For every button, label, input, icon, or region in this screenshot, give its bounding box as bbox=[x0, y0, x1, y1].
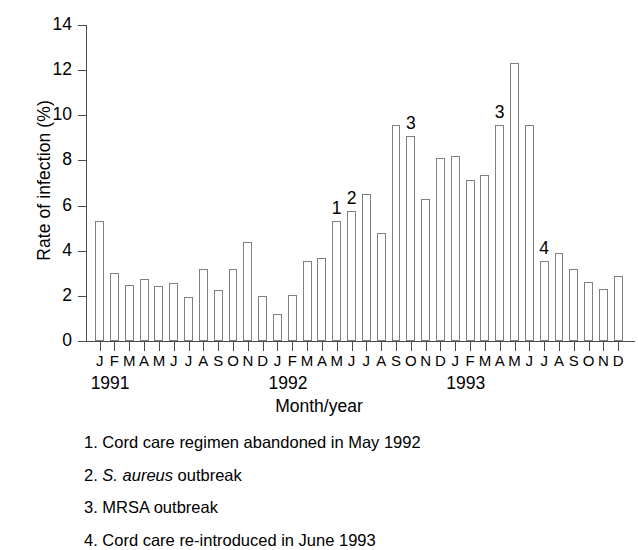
x-axis-tick bbox=[574, 342, 575, 351]
bar bbox=[317, 258, 326, 342]
x-axis-tick bbox=[263, 342, 264, 351]
y-axis-tick bbox=[78, 115, 86, 116]
bar bbox=[243, 242, 252, 341]
x-axis-tick bbox=[411, 342, 412, 351]
bar bbox=[288, 295, 297, 341]
y-axis-tick-label: 2 bbox=[16, 287, 72, 305]
bar bbox=[480, 175, 489, 341]
bar bbox=[347, 211, 356, 341]
x-axis-tick bbox=[174, 342, 175, 351]
x-axis-tick bbox=[500, 342, 501, 351]
bar bbox=[229, 269, 238, 341]
x-axis-tick bbox=[603, 342, 604, 351]
x-axis-tick bbox=[589, 342, 590, 351]
x-axis-tick bbox=[529, 342, 530, 351]
y-axis-title: Rate of infection (%) bbox=[34, 51, 55, 311]
bar bbox=[555, 253, 564, 341]
x-axis-tick bbox=[366, 342, 367, 351]
x-axis-tick bbox=[233, 342, 234, 351]
x-axis-tick bbox=[544, 342, 545, 351]
x-axis-tick bbox=[203, 342, 204, 351]
y-axis-tick-label: 6 bbox=[16, 197, 72, 215]
y-axis-tick bbox=[78, 341, 86, 342]
bar-callout-number: 3 bbox=[400, 115, 422, 133]
bar bbox=[510, 63, 519, 341]
bar bbox=[154, 286, 163, 341]
y-axis-tick bbox=[78, 160, 86, 161]
bar bbox=[495, 125, 504, 341]
x-axis-tick bbox=[485, 342, 486, 351]
bar bbox=[95, 221, 104, 341]
x-axis-tick bbox=[144, 342, 145, 351]
plot-area: 12334 bbox=[86, 25, 635, 341]
footnote-item: 3. MRSA outbreak bbox=[84, 499, 624, 516]
x-axis-tick bbox=[352, 342, 353, 351]
x-axis-tick bbox=[218, 342, 219, 351]
footnote-text: outbreak bbox=[173, 466, 242, 484]
bar-callout-number: 2 bbox=[341, 190, 363, 208]
bar bbox=[540, 261, 549, 341]
footnote-text: Cord care regimen abandoned in May 1992 bbox=[98, 433, 421, 451]
y-axis-tick-label: 4 bbox=[16, 242, 72, 260]
footnote-number: 4. bbox=[84, 531, 98, 549]
x-axis-tick bbox=[470, 342, 471, 351]
footnote-italic-text: S. aureus bbox=[102, 466, 173, 484]
footnote-number: 1. bbox=[84, 433, 98, 451]
bar bbox=[258, 296, 267, 341]
x-axis-tick bbox=[292, 342, 293, 351]
x-axis-title: Month/year bbox=[0, 396, 638, 417]
bar bbox=[332, 221, 341, 341]
x-axis-tick bbox=[322, 342, 323, 351]
y-axis-tick bbox=[78, 251, 86, 252]
y-axis-tick bbox=[78, 70, 86, 71]
bar bbox=[140, 279, 149, 341]
y-axis-tick-label: 12 bbox=[16, 61, 72, 79]
x-axis-year-label: 1991 bbox=[91, 375, 130, 393]
bar bbox=[614, 276, 623, 341]
bar-callout-number: 4 bbox=[533, 240, 555, 258]
footnote-item: 1. Cord care regimen abandoned in May 19… bbox=[84, 434, 624, 451]
bar bbox=[214, 290, 223, 341]
bar bbox=[599, 289, 608, 341]
bar bbox=[569, 269, 578, 341]
bar bbox=[451, 156, 460, 341]
bar bbox=[525, 125, 534, 341]
bar bbox=[125, 285, 134, 341]
bar bbox=[273, 314, 282, 341]
bar bbox=[436, 158, 445, 341]
bar bbox=[303, 261, 312, 341]
y-axis-tick-label: 0 bbox=[16, 332, 72, 350]
bar bbox=[199, 269, 208, 341]
y-axis-tick bbox=[78, 25, 86, 26]
y-axis-tick-label: 10 bbox=[16, 107, 72, 125]
footnote-list: 1. Cord care regimen abandoned in May 19… bbox=[84, 434, 624, 550]
bar bbox=[421, 199, 430, 341]
x-axis-tick bbox=[307, 342, 308, 351]
bar bbox=[406, 136, 415, 341]
footnote-text: MRSA outbreak bbox=[98, 498, 218, 516]
y-axis-tick-label: 14 bbox=[16, 16, 72, 34]
footnote-item: 2. S. aureus outbreak bbox=[84, 467, 624, 484]
x-axis-tick bbox=[426, 342, 427, 351]
bar-callout-number: 3 bbox=[489, 104, 511, 122]
x-axis-tick bbox=[189, 342, 190, 351]
bar bbox=[110, 273, 119, 341]
x-axis-tick bbox=[129, 342, 130, 351]
x-axis-tick bbox=[559, 342, 560, 351]
x-axis-tick bbox=[114, 342, 115, 351]
x-axis-tick bbox=[455, 342, 456, 351]
x-axis-tick bbox=[515, 342, 516, 351]
x-axis-year-label: 1993 bbox=[446, 375, 485, 393]
x-axis-tick bbox=[440, 342, 441, 351]
x-axis-tick bbox=[277, 342, 278, 351]
x-axis-tick bbox=[618, 342, 619, 351]
footnote-number: 2. bbox=[84, 466, 98, 484]
footnote-number: 3. bbox=[84, 498, 98, 516]
x-axis-tick bbox=[396, 342, 397, 351]
footnote-item: 4. Cord care re-introduced in June 1993 bbox=[84, 532, 624, 549]
bar bbox=[466, 180, 475, 341]
x-axis-tick bbox=[100, 342, 101, 351]
bar bbox=[362, 194, 371, 341]
y-axis-tick bbox=[78, 206, 86, 207]
